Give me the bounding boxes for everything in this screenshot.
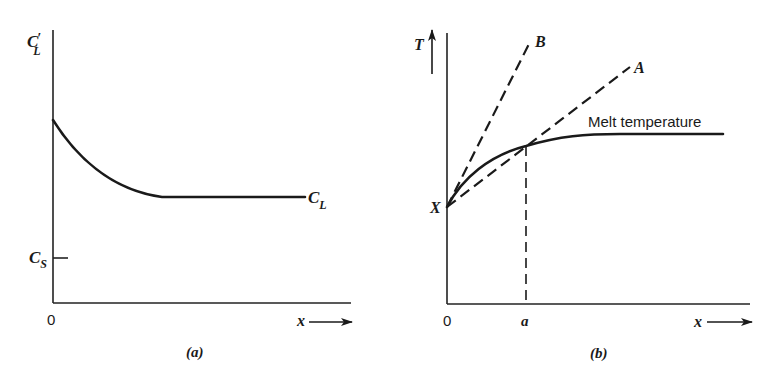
- panel-b-start-point-label: X: [429, 199, 441, 216]
- panel-b-line-b-label: B: [534, 33, 546, 50]
- panel-b-melt-temperature-label: Melt temperature: [588, 113, 701, 130]
- panel-a-curve-label: CL: [308, 188, 327, 212]
- figure-canvas: C′L CL CS 0 x (a) T B A: [0, 0, 769, 383]
- panel-b-caption: (b): [590, 345, 608, 362]
- panel-b-line-b: [447, 40, 531, 207]
- panel-a-x-axis-label: x: [296, 312, 305, 329]
- panel-b-origin-label: 0: [443, 312, 451, 329]
- panel-a-caption: (a): [186, 344, 204, 361]
- panel-a-origin-label: 0: [47, 311, 55, 328]
- panel-b-line-a-label: A: [633, 59, 645, 76]
- panel-b-y-axis-label: T: [414, 36, 425, 53]
- panel-a: C′L CL CS 0 x (a): [27, 30, 352, 361]
- panel-b-x-axis-label: x: [693, 313, 702, 330]
- panel-b: T B A Melt temperature X 0 a x (b): [414, 30, 752, 362]
- panel-b-line-a: [447, 67, 630, 207]
- panel-a-cs-label: CS: [29, 248, 47, 271]
- panel-a-y-axis-label: C′L: [27, 31, 41, 58]
- panel-b-melt-temperature-curve: [447, 134, 723, 207]
- panel-b-a-tick-label: a: [521, 313, 529, 329]
- panel-a-concentration-curve: [53, 120, 305, 197]
